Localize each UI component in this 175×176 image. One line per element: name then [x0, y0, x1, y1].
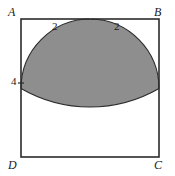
vertex-label-c: C [154, 159, 162, 171]
vertex-label-d: D [8, 159, 17, 171]
vertex-label-b: B [154, 6, 161, 18]
figure-canvas [0, 0, 175, 176]
measure-label-top-right: 2 [114, 21, 120, 32]
vertex-label-a: A [8, 6, 15, 18]
geometry-figure: A B C D 2 2 4 [0, 0, 175, 176]
measure-label-left-side: 4 [11, 76, 17, 87]
shaded-region [21, 19, 159, 107]
measure-label-top-left: 2 [52, 21, 58, 32]
